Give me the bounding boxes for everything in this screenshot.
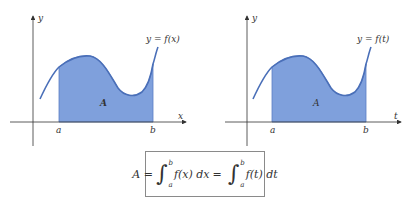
left-x-axis-label: x	[178, 111, 183, 121]
formula-equals: =	[213, 168, 222, 181]
integral-1-upper: b	[168, 159, 172, 167]
right-lower-limit-label: a	[270, 125, 275, 135]
right-t-axis-label: t	[394, 111, 398, 121]
integral-sign-2: ∫	[228, 163, 239, 185]
integral-2-lower: a	[240, 181, 244, 189]
right-curve-label: y = f(t)	[356, 34, 390, 44]
left-y-axis-label: y	[37, 13, 44, 23]
integral-sign-1: ∫	[156, 163, 167, 185]
left-upper-limit-label: b	[150, 125, 156, 135]
left-area-label: A	[99, 98, 107, 108]
right-upper-limit-label: b	[363, 125, 369, 135]
left-curve-label: y = f(x)	[145, 34, 180, 44]
area-formula: A = ∫ b a f(x) dx = ∫ b a f(t) dt	[146, 152, 264, 196]
formula-box: A = ∫ b a f(x) dx = ∫ b a f(t) dt	[145, 151, 265, 197]
right-area-label: A	[312, 98, 320, 108]
integral-1-lower: a	[168, 181, 172, 189]
left-graph: y x y = f(x) A a b	[10, 13, 186, 146]
integral-limits-1: b a	[168, 159, 172, 189]
formula-lhs: A =	[132, 168, 153, 181]
right-shaded-area	[272, 56, 366, 122]
integrand-2: f(t) dt	[246, 168, 278, 181]
left-lower-limit-label: a	[56, 125, 61, 135]
right-y-axis-label: y	[251, 13, 258, 23]
integral-2-upper: b	[240, 159, 244, 167]
right-graph: y t y = f(t) A a b	[225, 13, 401, 146]
left-shaded-area	[59, 56, 153, 122]
integral-limits-2: b a	[240, 159, 244, 189]
integrand-1: f(x) dx	[174, 168, 210, 181]
